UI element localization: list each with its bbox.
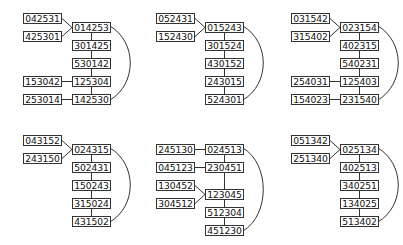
- side-node: 243150: [23, 153, 62, 164]
- side-node: 042531: [23, 13, 62, 24]
- side-node: 051342: [291, 135, 330, 146]
- side-node: 253014: [23, 94, 62, 105]
- main-node: 430152: [205, 58, 244, 69]
- main-node: 125304: [72, 76, 111, 87]
- main-node: 150243: [72, 180, 111, 191]
- main-node: 142530: [72, 94, 111, 105]
- edges: [268, 0, 402, 122]
- side-node: 043152: [23, 135, 62, 146]
- main-node: 513402: [340, 216, 379, 227]
- edges: [268, 122, 402, 244]
- edges: [133, 122, 267, 244]
- side-node: 154023: [291, 94, 330, 105]
- main-node: 451230: [205, 225, 244, 236]
- side-node: 152430: [156, 31, 195, 42]
- side-node: 425301: [23, 31, 62, 42]
- panel-6: 0251344025133402511340255134020513422513…: [268, 122, 402, 244]
- main-node: 134025: [340, 198, 379, 209]
- main-node: 014253: [72, 22, 111, 33]
- side-node: 052431: [156, 13, 195, 24]
- main-node: 025134: [340, 144, 379, 155]
- main-node: 502431: [72, 162, 111, 173]
- edges: [133, 0, 267, 122]
- main-node: 023154: [340, 22, 379, 33]
- main-node: 340251: [340, 180, 379, 191]
- side-node: 130452: [156, 180, 195, 191]
- main-node: 530142: [72, 58, 111, 69]
- main-node: 301524: [205, 40, 244, 51]
- main-node: 024513: [205, 144, 244, 155]
- panel-2: 0152433015244301522430155243010524311524…: [133, 0, 267, 122]
- main-node: 315024: [72, 198, 111, 209]
- side-node: 153042: [23, 76, 62, 87]
- side-node: 304512: [156, 198, 195, 209]
- main-node: 402513: [340, 162, 379, 173]
- main-node: 301425: [72, 40, 111, 51]
- edges: [0, 0, 134, 122]
- main-node: 512304: [205, 207, 244, 218]
- panel-1: 0142533014255301421253041425300425314253…: [0, 0, 134, 122]
- main-node: 123045: [205, 189, 244, 200]
- side-node: 031542: [291, 13, 330, 24]
- edges: [0, 122, 134, 244]
- main-node: 402315: [340, 40, 379, 51]
- side-node: 245130: [156, 144, 195, 155]
- main-node: 231540: [340, 94, 379, 105]
- side-node: 045123: [156, 162, 195, 173]
- panel-3: 0231544023155402311254032315400315423154…: [268, 0, 402, 122]
- main-node: 230451: [205, 162, 244, 173]
- panel-5: 0245132304511230455123044512302451300451…: [133, 122, 267, 244]
- main-node: 524301: [205, 94, 244, 105]
- side-node: 315402: [291, 31, 330, 42]
- main-node: 431502: [72, 216, 111, 227]
- main-node: 243015: [205, 76, 244, 87]
- main-node: 125403: [340, 76, 379, 87]
- panel-4: 0243155024311502433150244315020431522431…: [0, 122, 134, 244]
- side-node: 251340: [291, 153, 330, 164]
- main-node: 540231: [340, 58, 379, 69]
- side-node: 254031: [291, 76, 330, 87]
- main-node: 015243: [205, 22, 244, 33]
- main-node: 024315: [72, 144, 111, 155]
